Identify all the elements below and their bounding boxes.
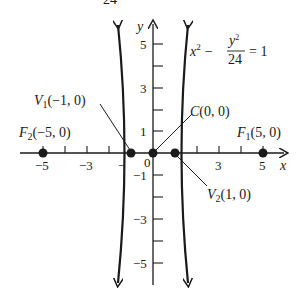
c-leader-line [155,114,192,151]
c-label: C(0, 0) [190,104,230,120]
hyperbola-diagram: 24 −5 −3 − 0 3 5 x 5 3 1 −1 −3 −5 y [0,0,302,289]
y-tick-label: 3 [140,81,147,96]
v1-leader-line [100,104,130,150]
hyperbola-equation: x2− y2 24 = 1 [189,33,267,67]
focus-f1-point [259,149,268,158]
x-tick-label: −3 [79,158,93,173]
v1-label: V1(−1, 0) [34,93,86,110]
hyperbola-right-branch [182,25,189,283]
y-tick-label: −1 [133,168,147,183]
x-tick-label: 5 [259,158,266,173]
y-tick-label: 1 [140,124,147,139]
y-axis-label: y [135,19,144,34]
svg-text:= 1: = 1 [249,44,267,59]
x-axis-label: x [279,158,287,173]
svg-text:y2: y2 [227,33,239,48]
svg-text:x2−: x2− [189,42,213,59]
v2-label: V2(1, 0) [207,187,251,204]
y-tick-label: −3 [133,212,147,227]
f2-label: F2(−5, 0) [18,125,71,142]
y-tick-label: −5 [133,256,147,271]
vertex-v2-point [171,149,180,158]
x-tick-label: 3 [215,158,222,173]
vertex-v1-point [127,149,136,158]
svg-text:24: 24 [228,52,242,67]
focus-f2-point [39,149,48,158]
top-fragment: 24 [103,0,117,7]
hyperbola-left-branch [118,25,125,283]
x-tick-label: −5 [35,158,49,173]
f1-label: F1(5, 0) [236,125,281,142]
y-tick-label: 5 [140,37,147,52]
